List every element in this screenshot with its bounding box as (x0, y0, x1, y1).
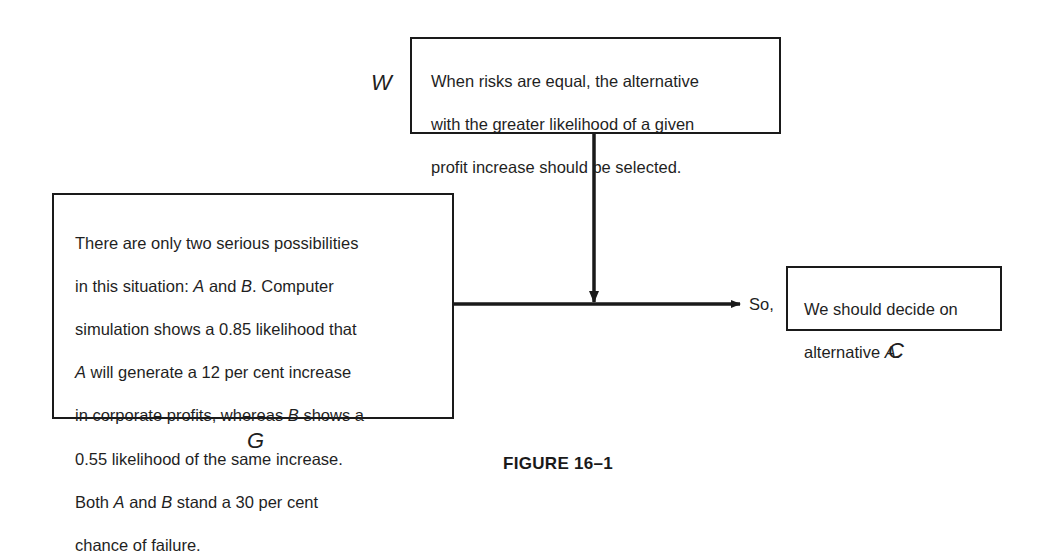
claim-line: We should decide on (804, 299, 958, 321)
grounds-line: There are only two serious possibilities (75, 233, 364, 255)
warrant-line: When risks are equal, the alternative (431, 71, 699, 93)
claim-line: alternative A. (804, 342, 958, 364)
warrant-box: When risks are equal, the alternative wi… (410, 37, 781, 134)
figure-caption: FIGURE 16–1 (503, 454, 613, 474)
grounds-line: in this situation: A and B. Computer (75, 276, 364, 298)
grounds-line: Both A and B stand a 30 per cent (75, 492, 364, 514)
grounds-line: A will generate a 12 per cent increase (75, 362, 364, 384)
warrant-label: W (371, 70, 392, 96)
grounds-box: There are only two serious possibilities… (52, 193, 454, 419)
claim-text: We should decide on alternative A. (804, 277, 958, 385)
grounds-line: in corporate profits, whereas B shows a (75, 405, 364, 427)
claim-box: We should decide on alternative A. (786, 266, 1002, 331)
claim-connector: So, (749, 295, 774, 314)
grounds-label: G (247, 428, 264, 454)
grounds-line: 0.55 likelihood of the same increase. (75, 449, 364, 471)
claim-label: C (888, 338, 904, 364)
warrant-text: When risks are equal, the alternative wi… (431, 49, 699, 200)
grounds-line: chance of failure. (75, 535, 364, 555)
grounds-text: There are only two serious possibilities… (75, 211, 364, 555)
grounds-line: simulation shows a 0.85 likelihood that (75, 319, 364, 341)
warrant-line: with the greater likelihood of a given (431, 114, 699, 136)
warrant-line: profit increase should be selected. (431, 157, 699, 179)
